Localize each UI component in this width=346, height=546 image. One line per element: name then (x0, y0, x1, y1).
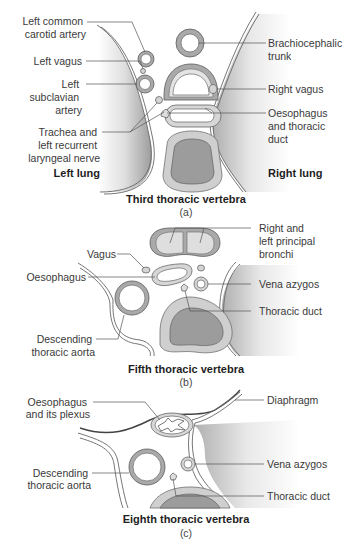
panel-a-title: Third thoracic vertebra (126, 193, 247, 205)
right-vagus-nerve (209, 85, 217, 94)
label-left-vagus: Left vagus (34, 55, 82, 67)
label-right-lung: Right lung (268, 167, 322, 179)
label-oesophagus-b: Oesophagus (26, 271, 86, 283)
panel-a: Left common carotid artery Left vagus Le… (22, 12, 345, 218)
panel-c-letter: (c) (180, 527, 192, 539)
label-vagus-b: Vagus (87, 248, 116, 260)
left-vagus-nerve (141, 69, 146, 74)
panel-b-letter: (b) (180, 376, 193, 388)
label-left-lung: Left lung (54, 167, 100, 179)
thoracic-duct-b (181, 284, 188, 291)
panel-c-title: Eighth thoracic vertebra (123, 513, 250, 525)
label-diaphragm: Diaphragm (267, 394, 319, 406)
label-aorta-b: Descending thoracic aorta (31, 333, 95, 358)
panel-c: Oesophagus and its plexus Diaphragm Vena… (26, 390, 330, 539)
mediastinum-diagram: Left common carotid artery Left vagus Le… (0, 0, 346, 546)
label-oesophagus-plexus: Oesophagus and its plexus (26, 396, 90, 420)
label-brachiocephalic: Brachiocephalic trunk (268, 37, 345, 62)
label-left-common-carotid: Left common carotid artery (22, 15, 86, 40)
label-bronchi: Right and left principal bronchi (259, 222, 318, 260)
label-vena-azygos-c: Vena azygos (267, 458, 327, 470)
label-oesophagus-duct: Oesophagus and thoracic duct (268, 107, 330, 145)
left-recurrent-laryngeal-nerve (156, 97, 163, 104)
label-vena-azygos-b: Vena azygos (259, 278, 319, 290)
panel-b: Right and left principal bronchi Vagus O… (26, 222, 322, 388)
panel-a-letter: (a) (180, 206, 193, 218)
thoracic-duct-c (170, 473, 177, 480)
label-aorta-c: Descending thoracic aorta (27, 467, 91, 491)
panel-b-title: Fifth thoracic vertebra (128, 363, 245, 375)
label-thoracic-duct-c: Thoracic duct (267, 490, 330, 502)
label-trachea-nerve: Trachea and left recurrent laryngeal ner… (28, 126, 100, 164)
label-left-subclavian: Left subclavian artery (29, 78, 82, 116)
vagus-nerve-left-b (142, 267, 150, 273)
vagus-nerve-right-b (198, 265, 205, 271)
label-right-vagus: Right vagus (268, 83, 323, 95)
label-thoracic-duct-b: Thoracic duct (259, 305, 322, 317)
